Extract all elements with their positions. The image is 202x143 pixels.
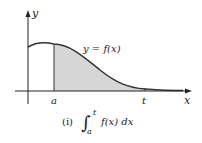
x-axis-arrow-icon bbox=[185, 89, 192, 94]
caption-upper-limit: t bbox=[93, 108, 97, 117]
x-axis-label: x bbox=[184, 94, 191, 107]
y-axis-label: y bbox=[31, 7, 39, 20]
a-label: a bbox=[51, 95, 57, 106]
curve-label: y = f(x) bbox=[82, 43, 121, 54]
caption-integrand: f(x) dx bbox=[100, 116, 134, 127]
caption-lower-limit: a bbox=[87, 127, 92, 136]
caption-number: (i) bbox=[62, 116, 73, 127]
t-label: t bbox=[142, 95, 147, 106]
y-axis-arrow-icon bbox=[26, 10, 31, 17]
integral-diagram: y x y = f(x) a t (i) ∫ t a f(x) dx bbox=[0, 0, 202, 143]
